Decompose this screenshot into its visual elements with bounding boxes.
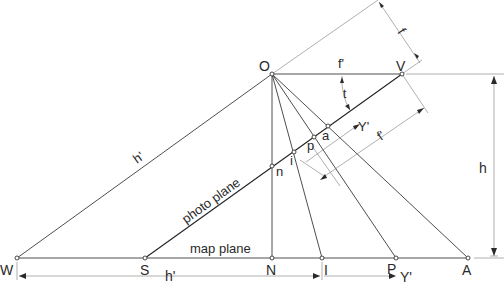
point-n-ground: [270, 256, 274, 260]
point-p-ground: [394, 256, 398, 260]
h-arrow-top: [491, 76, 497, 84]
label-f-top: f: [395, 25, 410, 37]
line-o-extension: [272, 0, 378, 74]
label-h-vertical: h: [479, 160, 487, 176]
label-i-ground: I: [324, 262, 328, 278]
label-p-photo: p: [307, 138, 314, 153]
f-prime-ext-v: [402, 74, 428, 113]
label-s: S: [140, 262, 149, 278]
point-a-ground: [466, 256, 470, 260]
f-prime-dimension-line: [322, 108, 424, 178]
f-arrow-top: [379, 2, 384, 8]
point-n-photo: [270, 164, 274, 168]
h-prime-arrow-left: [19, 273, 26, 279]
point-w: [15, 256, 19, 260]
label-i-photo: i: [290, 153, 293, 168]
line-w-o: [17, 74, 272, 258]
label-h-prime-bottom: h': [165, 268, 175, 284]
label-f-prime-angle: f': [338, 56, 344, 71]
point-o: [270, 72, 274, 76]
label-o: O: [259, 58, 270, 74]
f-prime-arrow-top: [417, 108, 424, 114]
label-y-prime-bottom: Y': [400, 269, 412, 285]
label-y-prime-photo: Y': [358, 119, 369, 134]
label-t-angle: t: [343, 87, 347, 101]
y-prime-ext-p: [300, 160, 324, 176]
label-v: V: [396, 58, 406, 74]
t-arrow-top: [340, 77, 344, 83]
point-i-ground: [320, 256, 324, 260]
t-arrow-bottom: [345, 104, 350, 110]
h-prime-arrow-right: [313, 273, 320, 279]
label-photo-plane: photo plane: [179, 175, 243, 227]
label-n-photo: n: [276, 164, 283, 179]
label-w: W: [0, 262, 14, 278]
label-n-ground: N: [266, 262, 276, 278]
h-arrow-bottom: [491, 248, 497, 256]
f-prime-arrow-bottom: [320, 174, 327, 180]
label-p-ground: P: [387, 261, 396, 277]
label-a-ground: A: [462, 262, 472, 278]
label-h-prime-slant: h': [130, 149, 147, 167]
label-a-photo: a: [322, 128, 330, 143]
label-map-plane: map plane: [190, 241, 251, 256]
ray-o-a: [272, 74, 468, 258]
tilted-photo-geometry-diagram: O V W S N I P A n i p a photo plane map …: [0, 0, 504, 293]
f-prime-ext-i: [312, 146, 340, 186]
point-s: [143, 256, 147, 260]
